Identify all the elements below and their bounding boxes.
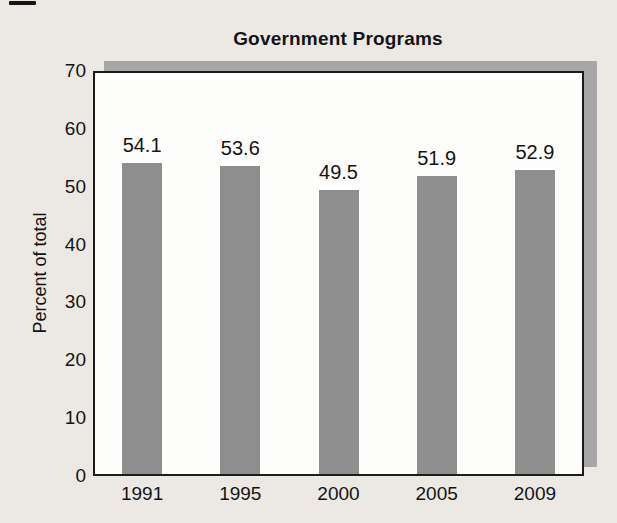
bar-value-label: 49.5: [294, 161, 384, 183]
x-tick-label: 1995: [195, 483, 285, 505]
bar-1995: [220, 166, 260, 474]
y-tick-label: 20: [26, 351, 86, 369]
y-tick-label: 50: [26, 178, 86, 196]
y-tick-label: 70: [26, 62, 86, 80]
bar-value-label: 53.6: [195, 137, 285, 159]
y-tick-label: 60: [26, 120, 86, 138]
y-tick-label: 40: [26, 236, 86, 254]
y-tick-label: 10: [26, 409, 86, 427]
scan-artifact-dash: [9, 1, 36, 5]
x-tick-label: 2005: [392, 483, 482, 505]
y-axis-title: Percent of total: [30, 182, 50, 364]
bar-2005: [417, 176, 457, 474]
bar-value-label: 54.1: [97, 134, 187, 156]
bar-2000: [319, 190, 359, 474]
x-tick-label: 2000: [294, 483, 384, 505]
bar-value-label: 51.9: [392, 147, 482, 169]
x-tick-label: 1991: [97, 483, 187, 505]
bar-2009: [515, 170, 555, 474]
x-tick-label: 2009: [490, 483, 580, 505]
bar-1991: [122, 163, 162, 474]
chart-title: Government Programs: [178, 28, 498, 52]
y-tick-label: 30: [26, 293, 86, 311]
y-tick-label: 0: [26, 467, 86, 485]
chart-figure: Government Programs Percent of total 010…: [0, 0, 617, 523]
bar-value-label: 52.9: [490, 141, 580, 163]
